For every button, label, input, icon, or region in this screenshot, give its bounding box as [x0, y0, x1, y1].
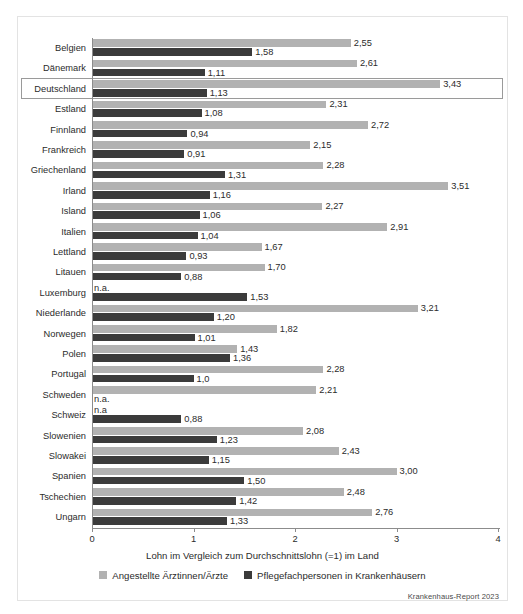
figure-container: Belgien2,551,58Dänemark2,611,11Deutschla… [17, 16, 508, 601]
bar-value-label: 2,21 [319, 385, 337, 395]
bar-pair: 2,21n.a. [92, 385, 507, 405]
bar-pair: 2,551,58 [92, 38, 507, 58]
category-label-griechenland: Griechenland [18, 163, 86, 177]
bar-light [92, 305, 418, 313]
bar-dark [92, 48, 252, 56]
bar-pair: 3,511,16 [92, 181, 507, 201]
bar-pair: 2,720,94 [92, 120, 507, 140]
bar-dark [92, 69, 205, 77]
bar-dark [92, 130, 187, 138]
bar-dark [92, 415, 181, 423]
legend-swatch-light-icon [99, 571, 107, 579]
bar-value-label: 1,13 [210, 88, 228, 98]
bar-pair: 2,431,15 [92, 446, 507, 466]
bar-value-label: 1,11 [208, 68, 225, 78]
source-note: Krankenhaus-Report 2023 [408, 592, 499, 601]
bar-light [92, 60, 357, 68]
category-label-slowakei: Slowakei [18, 449, 86, 463]
category-label-slowenien: Slowenien [18, 429, 86, 443]
bar-light [92, 345, 237, 353]
bar-value-label: 2,15 [313, 140, 331, 150]
legend-label-pflegefachpersonen: Pflegefachpersonen in Krankenhäusern [257, 570, 426, 581]
x-tick-mark [92, 528, 93, 532]
bar-value-label: 2,31 [329, 99, 347, 109]
bar-value-label: 1,08 [205, 108, 223, 118]
bar-value-label: 2,91 [390, 222, 408, 232]
bar-light [92, 325, 277, 333]
x-tick-label: 1 [191, 534, 196, 545]
bar-pair: 2,311,08 [92, 99, 507, 119]
x-tick-mark [295, 528, 296, 532]
x-tick-label: 3 [394, 534, 399, 545]
x-tick-mark [397, 528, 398, 532]
bar-value-label: 2,55 [354, 38, 372, 48]
bar-pair: 1,431,36 [92, 344, 507, 364]
bar-dark [92, 252, 186, 260]
x-tick-label: 2 [292, 534, 297, 545]
bar-light [92, 243, 262, 251]
x-tick-label: 0 [89, 534, 94, 545]
y-axis-line [92, 38, 93, 528]
category-label-belgien: Belgien [18, 41, 86, 55]
bar-value-label: 2,28 [326, 364, 344, 374]
bar-dark [92, 293, 247, 301]
category-label-norwegen: Norwegen [18, 327, 86, 341]
bar-dark [92, 477, 244, 485]
bar-value-label: 3,43 [443, 79, 461, 89]
x-tick-mark [194, 528, 195, 532]
bar-light [92, 80, 440, 88]
bar-light [92, 121, 368, 129]
bar-dark [92, 89, 207, 97]
bar-pair: n.a.1,53 [92, 283, 507, 303]
bar-dark [92, 375, 194, 383]
bar-light [92, 488, 344, 496]
category-label-tschechien: Tschechien [18, 490, 86, 504]
bar-light [92, 427, 303, 435]
bar-dark [92, 497, 236, 505]
bar-pair: 2,911,04 [92, 222, 507, 242]
bar-value-label: 2,28 [326, 160, 344, 170]
bar-value-label: 1,04 [201, 231, 219, 241]
bar-value-label: 1,15 [212, 455, 230, 465]
bar-light [92, 509, 372, 517]
category-label-niederlande: Niederlande [18, 306, 86, 320]
bar-value-label: 1,33 [230, 516, 248, 526]
bar-light [92, 141, 310, 149]
bar-light [92, 447, 339, 455]
bar-value-na-label: n.a. [94, 283, 110, 293]
category-label-lettland: Lettland [18, 245, 86, 259]
bar-value-label: 1,20 [217, 312, 235, 322]
bar-dark [92, 211, 200, 219]
bar-value-label: 1,31 [228, 170, 246, 180]
bar-dark [92, 171, 225, 179]
bar-value-label: 2,43 [342, 446, 360, 456]
category-label-luxemburg: Luxemburg [18, 286, 86, 300]
bar-pair: 2,081,23 [92, 426, 507, 446]
bar-pair: 2,281,0 [92, 364, 507, 384]
bar-pair: 2,481,42 [92, 487, 507, 507]
category-label-italien: Italien [18, 225, 86, 239]
bar-light [92, 264, 265, 272]
bar-dark [92, 354, 230, 362]
bar-value-label: 0,88 [184, 414, 202, 424]
bar-light [92, 162, 323, 170]
category-label-finnland: Finnland [18, 123, 86, 137]
category-label-deutschland: Deutschland [18, 82, 86, 96]
bar-value-label: 1,01 [198, 333, 216, 343]
bar-dark [92, 109, 202, 117]
bar-value-na-label: n.a [94, 405, 107, 415]
legend-label-aerztinnen: Angestellte Ärztinnen/Ärzte [112, 570, 228, 581]
bar-dark [92, 436, 217, 444]
category-label-schweden: Schweden [18, 388, 86, 402]
bar-value-label: 3,51 [451, 181, 469, 191]
bar-dark [92, 456, 209, 464]
bar-dark [92, 191, 210, 199]
bar-light [92, 468, 397, 476]
bar-value-label: 1,67 [265, 242, 283, 252]
x-tick-label: 4 [495, 534, 500, 545]
bar-light [92, 182, 448, 190]
bar-light [92, 39, 351, 47]
bar-dark [92, 313, 214, 321]
bar-value-label: 1,42 [239, 496, 257, 506]
bar-pair: 3,211,20 [92, 303, 507, 323]
